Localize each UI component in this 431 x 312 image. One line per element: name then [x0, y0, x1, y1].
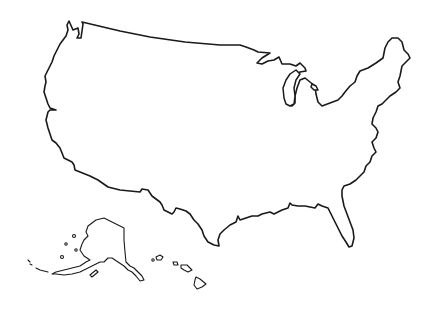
hawaii-niihau-kauai [156, 255, 163, 260]
hawaii-oahu [173, 262, 178, 265]
alaska-island-4 [75, 249, 77, 251]
alaska-island-3 [61, 256, 64, 259]
hawaii-big-island [194, 277, 206, 289]
map-svg [0, 0, 431, 312]
us-outline-map [0, 0, 431, 312]
region-contiguous-us [44, 21, 410, 247]
lake-erie-edge [311, 84, 318, 90]
hawaii-small-island [152, 259, 154, 261]
hawaii-maui-molokai [181, 265, 192, 272]
alaska-island-1 [73, 235, 76, 238]
alaska-island-2 [65, 243, 67, 245]
alaska-kodiak [90, 270, 98, 277]
alaska-aleutian-chain [28, 260, 48, 272]
